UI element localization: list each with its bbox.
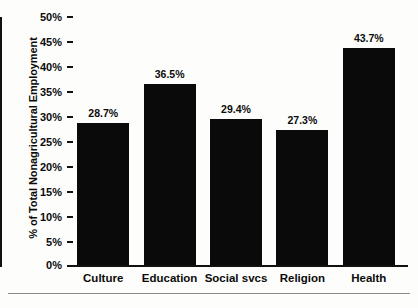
- y-tick-label-45: 45%: [18, 37, 62, 48]
- bar-religion[interactable]: [276, 130, 328, 265]
- y-tick-label-35: 35%: [18, 87, 62, 98]
- chart-figure: % of Total Nonagricultural Employment 50…: [0, 0, 418, 308]
- y-axis-tick-50: [67, 16, 73, 18]
- y-axis-tick-35: [67, 91, 73, 93]
- y-tick-label-25: 25%: [18, 137, 62, 148]
- x-tick-label-health: Health: [324, 272, 414, 285]
- y-tick-label-0: 0%: [18, 260, 62, 271]
- x-axis-line: [67, 265, 408, 267]
- y-axis-tick-labels: 50% 45% 40% 35% 30% 25% 20% 15% 10% 5% 0…: [16, 0, 62, 308]
- bar-health[interactable]: [343, 48, 395, 265]
- y-tick-label-10: 10%: [18, 212, 62, 223]
- bar-value-social-svcs: 29.4%: [196, 104, 276, 115]
- bar-education[interactable]: [144, 84, 196, 265]
- y-tick-label-30: 30%: [18, 112, 62, 123]
- bar-social-svcs[interactable]: [210, 119, 262, 265]
- bar-culture[interactable]: [77, 123, 129, 265]
- y-axis-tick-45: [67, 41, 73, 43]
- y-tick-label-50: 50%: [18, 12, 62, 23]
- y-axis-tick-10: [67, 216, 73, 218]
- y-axis-tick-20: [67, 166, 73, 168]
- y-axis-tick-15: [67, 191, 73, 193]
- y-tick-label-5: 5%: [18, 237, 62, 248]
- y-axis-tick-40: [67, 66, 73, 68]
- y-tick-label-40: 40%: [18, 62, 62, 73]
- y-tick-label-20: 20%: [18, 162, 62, 173]
- bar-value-education: 36.5%: [130, 69, 210, 80]
- y-axis-tick-5: [67, 241, 73, 243]
- bar-value-religion: 27.3%: [262, 115, 342, 126]
- y-axis-tick-25: [67, 141, 73, 143]
- y-axis-line: [0, 17, 2, 267]
- bar-value-health: 43.7%: [329, 33, 409, 44]
- bar-value-culture: 28.7%: [63, 108, 143, 119]
- y-tick-label-15: 15%: [18, 187, 62, 198]
- footer-divider: [8, 293, 410, 294]
